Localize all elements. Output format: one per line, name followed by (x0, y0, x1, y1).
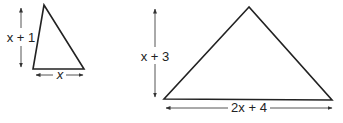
small-height-label-text: x + 1 (7, 30, 36, 45)
large-base-label: 2x + 4 (231, 100, 267, 115)
small-base-label: x (56, 67, 64, 82)
small-triangle: x + 1 x (7, 5, 84, 82)
large-triangle: x + 3 2x + 4 (141, 7, 332, 115)
small-triangle-shape (33, 5, 84, 69)
large-height-label: x + 3 (141, 49, 170, 64)
small-height-label: x + 1 (7, 30, 36, 45)
similar-triangles-diagram: x + 1 x x + 3 2x + 4 (0, 0, 343, 123)
large-triangle-shape (164, 7, 332, 100)
